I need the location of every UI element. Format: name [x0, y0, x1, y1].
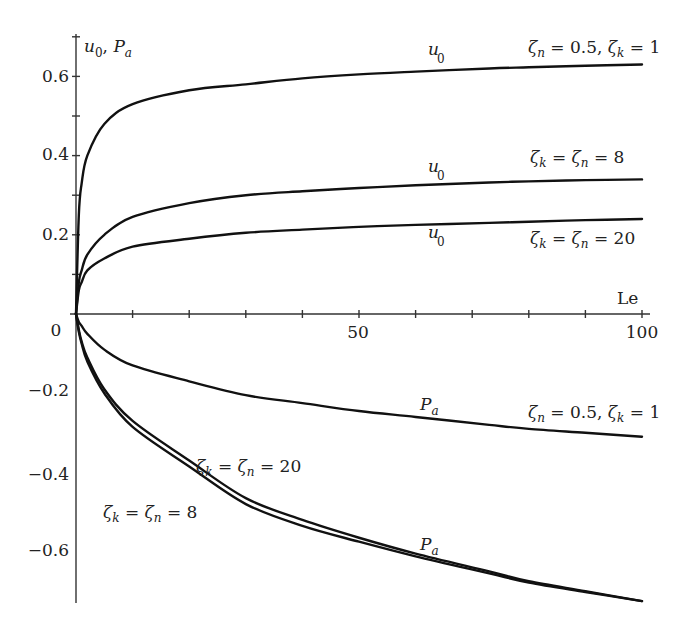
- annotation-u0-top: u0: [428, 39, 445, 66]
- y-tick-neg0.6: −0.6: [28, 540, 69, 560]
- annotation-zeta-n05-k1-pa: ζn = 0.5, ζk = 1: [528, 402, 660, 425]
- annotation-zeta-8-pa: ζk = ζn = 8: [103, 502, 197, 525]
- y-tick-0.4: 0.4: [42, 144, 69, 164]
- axis-titles: Le u0, Pa: [84, 36, 638, 308]
- y-tick-neg0.2: −0.2: [28, 380, 69, 400]
- x-axis-title: Le: [617, 288, 638, 308]
- annotation-zeta-8-u0: ζk = ζn = 8: [530, 147, 624, 170]
- y-tick-neg0.4: −0.4: [28, 464, 69, 484]
- y-tick-0.6: 0.6: [42, 66, 69, 86]
- tick-labels: 0 50 100 0.6 0.4 0.2 −0.2 −0.4 −0.6: [28, 66, 659, 560]
- x-tick-50: 50: [347, 322, 369, 342]
- annotation-zeta-20-pa: ζk = ζn = 20: [196, 456, 301, 479]
- series-line-5: [76, 314, 642, 601]
- annotation-pa-upper: Pa: [419, 394, 439, 418]
- line-chart: 0 50 100 0.6 0.4 0.2 −0.2 −0.4 −0.6 Le u…: [0, 0, 685, 635]
- y-axis-title: u0, Pa: [84, 36, 132, 60]
- series-line-4: [76, 314, 642, 601]
- annotation-zeta-n05-k1-top: ζn = 0.5, ζk = 1: [528, 37, 660, 60]
- x-tick-100: 100: [626, 322, 658, 342]
- annotation-zeta-20-u0: ζk = ζn = 20: [530, 228, 635, 251]
- x-tick-0: 0: [51, 320, 62, 340]
- annotation-u0-mid: u0: [428, 156, 445, 183]
- y-tick-0.2: 0.2: [42, 224, 69, 244]
- annotation-u0-low: u0: [428, 222, 445, 249]
- curve-annotations: u0 u0 u0 ζn = 0.5, ζk = 1 ζk = ζn = 8 ζk…: [103, 37, 660, 558]
